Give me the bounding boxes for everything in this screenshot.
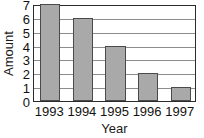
y-tick-label: 3 [23,54,30,67]
x-tick-label: 1994 [67,104,96,119]
x-axis-title: Year [33,121,196,136]
x-tick-label: 1997 [165,104,194,119]
x-axis-tick-labels: 19931994199519961997 [33,104,196,119]
y-tick-label: 2 [23,68,30,81]
bar-chart-figure: Amount 01234567 19931994199519961997 Yea… [0,0,204,138]
y-tick-label: 4 [23,40,30,53]
y-tick-label: 0 [23,96,30,109]
bar [73,18,93,101]
x-tick-label: 1993 [35,104,64,119]
plot-area [33,5,196,102]
x-tick-label: 1995 [100,104,129,119]
bar [138,73,158,101]
x-tick-label: 1996 [133,104,162,119]
y-axis-title: Amount [0,5,17,102]
bars-group [34,6,195,101]
bar [40,4,60,101]
y-axis-title-text: Amount [1,31,16,76]
y-tick-label: 6 [23,12,30,25]
bar [171,87,191,101]
y-axis-tick-labels: 01234567 [17,5,31,102]
bar [105,46,125,101]
y-tick-label: 1 [23,82,30,95]
y-tick-label: 7 [23,0,30,12]
y-tick-label: 5 [23,26,30,39]
